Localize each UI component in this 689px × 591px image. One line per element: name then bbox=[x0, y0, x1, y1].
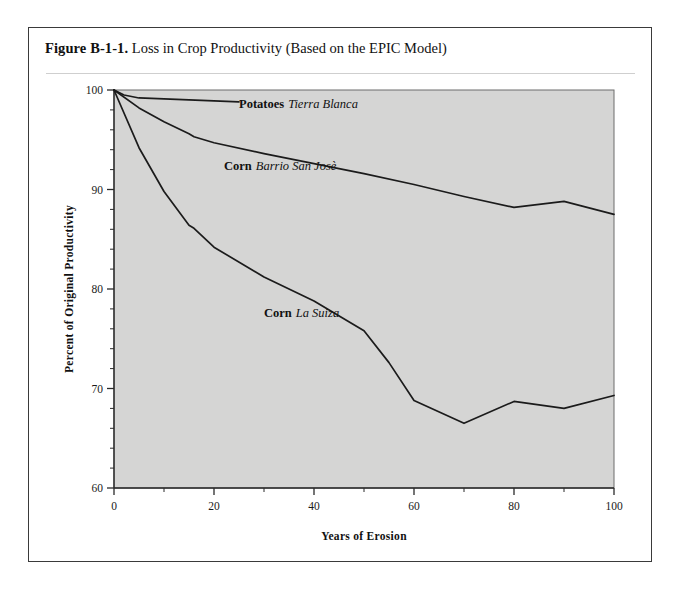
y-tick-label: 60 bbox=[92, 482, 104, 494]
x-tick-label: 80 bbox=[508, 500, 520, 512]
x-tick-label: 0 bbox=[111, 500, 117, 512]
series-crop-name: Potatoes bbox=[239, 97, 284, 111]
x-axis-title: Years of Erosion bbox=[321, 530, 407, 542]
series-crop-name: Corn bbox=[264, 306, 292, 320]
chart-container: 020406080100 60708090100 Years of Erosio… bbox=[29, 28, 653, 563]
y-tick-label: 100 bbox=[86, 84, 104, 96]
x-tick-label: 20 bbox=[208, 500, 220, 512]
figure-frame: Figure B-1-1. Loss in Crop Productivity … bbox=[28, 27, 652, 562]
x-axis-tick-labels: 020406080100 bbox=[111, 500, 623, 512]
x-tick-label: 100 bbox=[605, 500, 623, 512]
series-annotation: PotatoesTierra Blanca bbox=[239, 97, 358, 111]
series-site-name: Barrio San Josè bbox=[256, 159, 337, 173]
plot-area-background bbox=[114, 90, 614, 488]
series-annotation: CornBarrio San Josè bbox=[224, 159, 337, 173]
y-tick-label: 70 bbox=[92, 383, 104, 395]
line-chart: 020406080100 60708090100 Years of Erosio… bbox=[29, 28, 653, 563]
x-tick-label: 60 bbox=[408, 500, 420, 512]
series-annotation: CornLa Suiza bbox=[264, 306, 339, 320]
series-crop-name: Corn bbox=[224, 159, 252, 173]
series-site-name: La Suiza bbox=[295, 306, 339, 320]
y-tick-label: 90 bbox=[92, 184, 104, 196]
y-tick-label: 80 bbox=[92, 283, 104, 295]
y-axis-title: Percent of Original Productivity bbox=[63, 205, 76, 373]
series-site-name: Tierra Blanca bbox=[288, 97, 358, 111]
x-tick-label: 40 bbox=[308, 500, 320, 512]
y-axis-tick-labels: 60708090100 bbox=[86, 84, 104, 494]
